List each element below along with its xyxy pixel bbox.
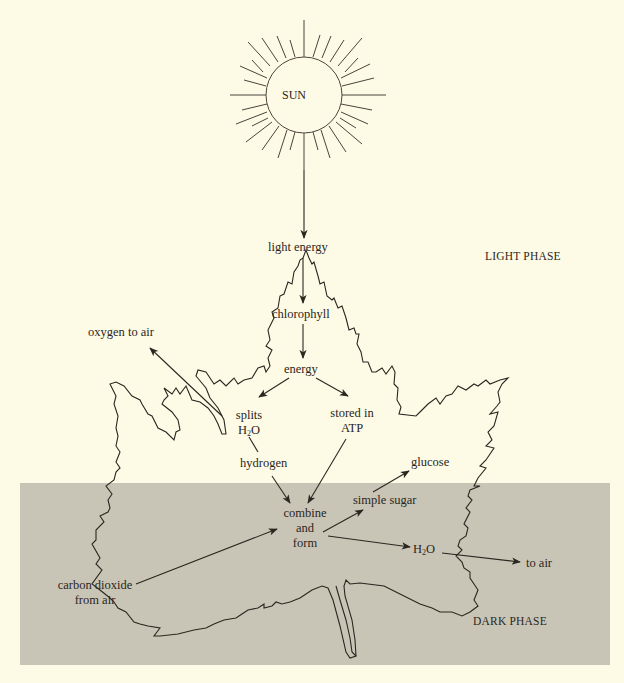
arrow-combine-to-water [328, 536, 410, 547]
energy-label: energy [284, 362, 318, 377]
photosynthesis-diagram: SUN LIGHT PHASE DARK PHASE light energy … [0, 0, 624, 683]
arrow-water-to-air [442, 553, 520, 562]
arrow-energy-to-stored [316, 378, 348, 396]
water-formula: H2O [228, 423, 270, 441]
arrow-co2-to-combine [136, 529, 277, 584]
chlorophyll-label: chlorophyll [272, 307, 330, 322]
carbon-dioxide-label: carbon dioxide from air [53, 578, 137, 608]
sun-label: SUN [282, 88, 306, 103]
arrow-energy-to-splits [259, 378, 289, 397]
sun-icon [230, 20, 386, 170]
splits-text: splits [228, 408, 270, 423]
light-phase-label: LIGHT PHASE [485, 249, 561, 264]
splits-water-label: splits H2O [228, 408, 270, 441]
arrow-splits-to-oxygen [150, 348, 222, 416]
dark-phase-label: DARK PHASE [473, 614, 547, 629]
light-energy-label: light energy [268, 240, 328, 255]
water-output-label: H2O [413, 542, 435, 560]
simple-sugar-label: simple sugar [353, 493, 417, 508]
hydrogen-label: hydrogen [240, 456, 287, 471]
arrow-hydrogen-to-combine [272, 476, 290, 503]
glucose-label: glucose [411, 455, 449, 470]
stored-in-atp-label: stored in ATP [324, 406, 380, 436]
arrow-atp-to-combine [308, 439, 346, 503]
arrow-sugar-to-glucose [373, 471, 409, 492]
to-air-label: to air [526, 556, 552, 571]
oxygen-to-air-label: oxygen to air [88, 325, 154, 340]
combine-and-form-label: combine and form [278, 506, 332, 551]
